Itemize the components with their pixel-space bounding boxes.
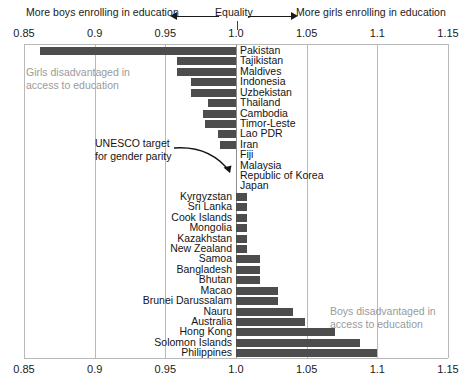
bar-sri-lanka [236, 203, 247, 211]
arrow-left-icon [170, 12, 177, 20]
bar-bangladesh [236, 266, 260, 274]
x-tick-label-0.95: 0.95 [155, 363, 176, 375]
x-tick-label-0.9: 0.9 [87, 363, 102, 375]
bar-row: Pakistan [0, 46, 468, 57]
more-girls-note: More girls enrolling in education [296, 6, 446, 18]
bar-new-zealand [236, 245, 247, 253]
bar-maldives [177, 68, 236, 76]
bar-tajikistan [177, 57, 236, 65]
bar-row: Kazakhstan [0, 233, 468, 244]
bar-nauru [236, 308, 293, 316]
bar-kazakhstan [236, 235, 247, 243]
boys-disadvantaged-note: Boys disadvantaged in access to educatio… [330, 305, 436, 331]
gender-parity-index-chart: More boys enrolling in education Equalit… [0, 0, 468, 384]
x-tick-label-1.1: 1.1 [370, 27, 385, 39]
x-tick-label-1.0: 1.0 [228, 27, 243, 39]
x-tick-label-1.0: 1.0 [228, 363, 243, 375]
bar-uzbekistan [191, 89, 236, 97]
girls-disadvantaged-note: Girls disadvantaged in access to educati… [26, 66, 130, 92]
bar-row: Macao [0, 285, 468, 296]
bar-row: Kyrgyzstan [0, 191, 468, 202]
bar-mongolia [236, 224, 247, 232]
bar-brunei-darussalam [236, 297, 278, 305]
x-tick-label-1.15: 1.15 [437, 363, 458, 375]
bar-row: New Zealand [0, 243, 468, 254]
bar-australia [236, 318, 305, 326]
bar-row: Thailand [0, 98, 468, 109]
x-tick-label-0.85: 0.85 [13, 27, 34, 39]
bar-row: Sri Lanka [0, 202, 468, 213]
x-tick-label-1.05: 1.05 [296, 27, 317, 39]
x-tick-label-1.05: 1.05 [296, 363, 317, 375]
bar-row: Philippines [0, 348, 468, 359]
bar-kyrgyzstan [236, 193, 247, 201]
left-arrow-shaft [175, 16, 219, 17]
more-boys-note: More boys enrolling in education [26, 6, 179, 18]
bar-cambodia [203, 110, 236, 118]
x-tick-label-1.1: 1.1 [370, 363, 385, 375]
x-tick-label-0.95: 0.95 [155, 27, 176, 39]
bar-bhutan [236, 276, 260, 284]
bar-row: Japan [0, 181, 468, 192]
bar-hong-kong [236, 328, 335, 336]
bar-pakistan [40, 47, 236, 55]
bar-thailand [208, 99, 236, 107]
x-tick-label-0.9: 0.9 [87, 27, 102, 39]
x-tick-label-1.15: 1.15 [437, 27, 458, 39]
category-label-philippines: Philippines [181, 347, 232, 358]
right-arrow-shaft [248, 16, 292, 17]
bar-timor-leste [205, 120, 236, 128]
bar-cook-islands [236, 214, 247, 222]
unesco-target-note: UNESCO target for gender parity [95, 137, 171, 163]
bar-row: Mongolia [0, 223, 468, 234]
bar-row: Cook Islands [0, 212, 468, 223]
bar-row: Cambodia [0, 108, 468, 119]
curved-arrow-icon [172, 142, 244, 182]
x-tick-label-0.85: 0.85 [13, 363, 34, 375]
bar-samoa [236, 255, 260, 263]
category-label-japan: Japan [240, 180, 269, 191]
bar-row: Timor-Leste [0, 118, 468, 129]
bar-row: Lao PDR [0, 129, 468, 140]
bar-row: Samoa [0, 254, 468, 265]
bar-macao [236, 287, 278, 295]
bar-row: Solomon Islands [0, 337, 468, 348]
bar-row: Bangladesh [0, 264, 468, 275]
bar-lao-pdr [218, 130, 236, 138]
bar-solomon-islands [236, 339, 360, 347]
bar-philippines [236, 349, 377, 357]
bar-row: Bhutan [0, 275, 468, 286]
bar-indonesia [191, 78, 236, 86]
